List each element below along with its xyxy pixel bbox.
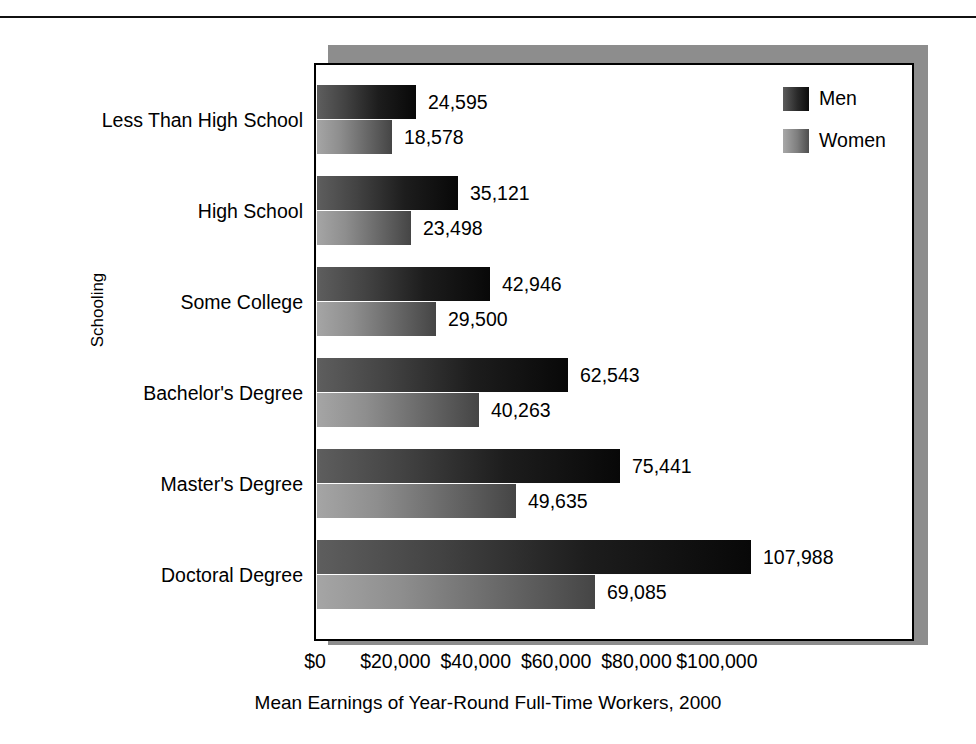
y-axis-label-4: Master's Degree — [3, 474, 303, 494]
bar-value-men-2: 42,946 — [502, 267, 562, 301]
x-tick-5: $100,000 — [676, 650, 757, 673]
bar-value-women-2: 29,500 — [448, 302, 508, 336]
x-axis-title: Mean Earnings of Year-Round Full-Time Wo… — [0, 692, 976, 714]
x-axis-tick-labels: $0$20,000$40,000$60,000$80,000$100,000 — [0, 650, 976, 680]
chart-legend: Men Women — [783, 84, 923, 164]
bar-value-men-5: 107,988 — [763, 540, 834, 574]
bar-men-2 — [317, 267, 490, 301]
y-axis-category-labels: Less Than High SchoolHigh SchoolSome Col… — [0, 0, 303, 744]
x-tick-0: $0 — [304, 650, 326, 673]
bar-women-4 — [317, 484, 516, 518]
bar-women-2 — [317, 302, 436, 336]
bar-men-0 — [317, 85, 416, 119]
bar-value-men-3: 62,543 — [580, 358, 640, 392]
legend-swatch-men-icon — [783, 87, 809, 111]
bar-men-1 — [317, 176, 458, 210]
bar-value-men-1: 35,121 — [470, 176, 530, 210]
y-axis-label-1: High School — [3, 201, 303, 221]
bar-women-3 — [317, 393, 479, 427]
y-axis-title: Schooling — [88, 220, 108, 400]
x-tick-2: $40,000 — [441, 650, 512, 673]
bar-value-women-3: 40,263 — [491, 393, 551, 427]
y-axis-label-5: Doctoral Degree — [3, 565, 303, 585]
chart-figure: 24,59518,57835,12123,49842,94629,50062,5… — [0, 0, 976, 744]
y-axis-label-3: Bachelor's Degree — [3, 383, 303, 403]
bar-women-0 — [317, 120, 392, 154]
bar-women-5 — [317, 575, 595, 609]
legend-swatch-women-icon — [783, 129, 809, 153]
bar-value-women-4: 49,635 — [528, 484, 588, 518]
legend-label-women: Women — [819, 126, 886, 154]
bar-value-women-0: 18,578 — [404, 120, 464, 154]
y-axis-label-0: Less Than High School — [3, 110, 303, 130]
x-tick-1: $20,000 — [360, 650, 431, 673]
bar-women-1 — [317, 211, 411, 245]
bar-value-women-1: 23,498 — [423, 211, 483, 245]
bar-men-5 — [317, 540, 751, 574]
bar-men-3 — [317, 358, 568, 392]
x-tick-4: $80,000 — [601, 650, 672, 673]
y-axis-label-2: Some College — [3, 292, 303, 312]
bar-men-4 — [317, 449, 620, 483]
bar-value-women-5: 69,085 — [607, 575, 667, 609]
bar-value-men-0: 24,595 — [428, 85, 488, 119]
x-tick-3: $60,000 — [521, 650, 592, 673]
legend-label-men: Men — [819, 84, 857, 112]
bar-value-men-4: 75,441 — [632, 449, 692, 483]
